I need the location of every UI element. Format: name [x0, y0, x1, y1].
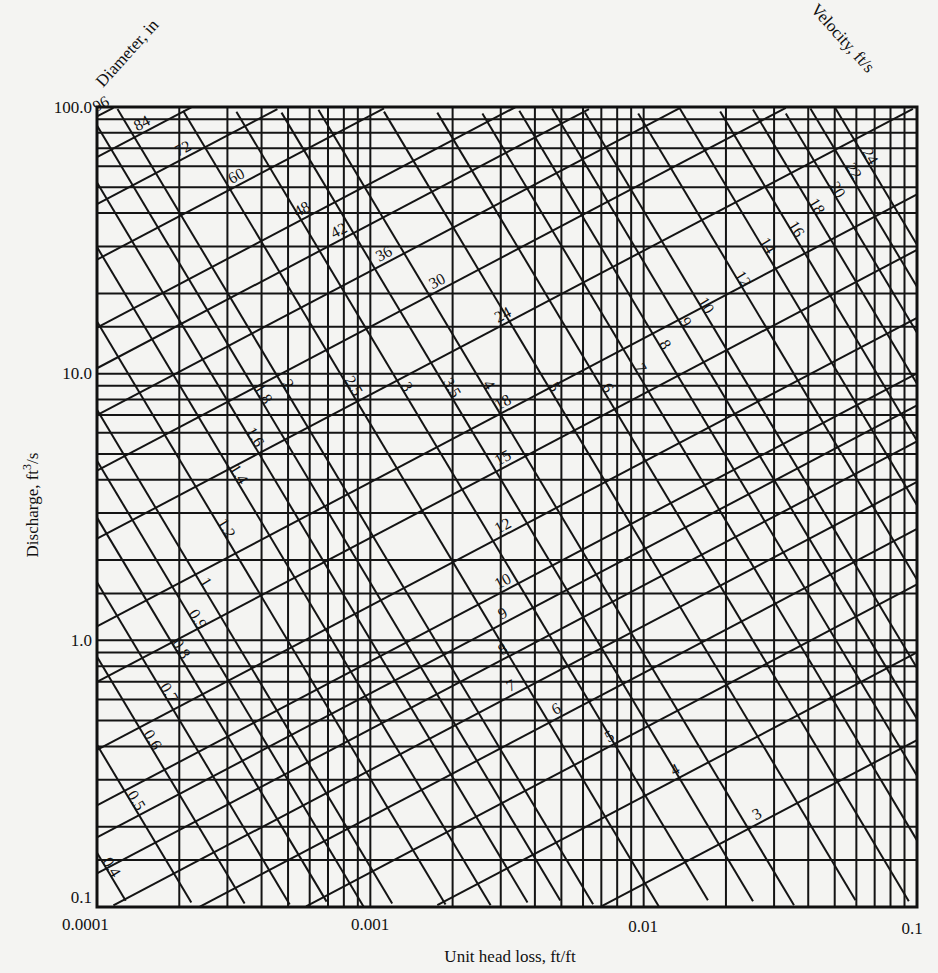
velocity-label: 1.8	[251, 381, 276, 407]
y-tick-0-1: 0.1	[71, 888, 92, 907]
x-tick-0-0001: 0.0001	[62, 915, 109, 934]
velocity-line	[437, 113, 909, 902]
diameter-line	[113, 482, 917, 905]
velocity-label: 22	[843, 160, 866, 182]
diameter-label: 9	[495, 604, 510, 623]
velocity-line	[97, 183, 528, 903]
nomograph-chart: 9684726048423630241815121098765432422201…	[0, 0, 938, 973]
diameter-label: 7	[503, 676, 518, 695]
y-axis-title: Discharge, ft3/s	[20, 453, 42, 558]
diameter-line	[97, 108, 786, 471]
diameter-label: 10	[492, 570, 514, 592]
velocity-label: 8	[656, 337, 675, 353]
velocity-label: 0.9	[186, 606, 211, 632]
diameter-label: 4	[667, 760, 682, 779]
velocity-label: 14	[757, 234, 780, 256]
x-tick-0-001: 0.001	[351, 915, 389, 934]
diameter-label: 96	[90, 92, 112, 114]
velocity-line	[585, 113, 917, 668]
velocity-line	[118, 109, 594, 904]
velocity-label: 1	[197, 574, 216, 590]
diameter-line	[306, 584, 917, 906]
velocity-label: 1.4	[227, 461, 252, 487]
velocity-label: 0.5	[124, 787, 149, 813]
velocity-label: 12	[732, 267, 755, 289]
velocity-label: 1.2	[214, 515, 239, 541]
diameter-axis-title: Diameter, in	[92, 15, 163, 91]
velocity-label: 3	[398, 379, 417, 395]
diameter-label: 72	[172, 137, 194, 159]
x-tick-0-1: 0.1	[901, 919, 922, 938]
velocity-label: 4	[480, 377, 499, 393]
diameter-line	[601, 740, 917, 906]
diameter-label: 12	[492, 514, 514, 536]
diameter-label: 18	[492, 391, 514, 413]
velocity-line	[786, 113, 917, 332]
velocity-line	[236, 112, 708, 901]
velocity-label: 3.5	[440, 375, 465, 401]
velocity-label: 2.5	[341, 373, 366, 399]
diameter-line	[97, 441, 917, 873]
y-tick-10: 10.0	[62, 364, 92, 383]
velocity-axis-title: Velocity, ft/s	[807, 0, 879, 76]
x-axis-title: Unit head loss, ft/ft	[444, 947, 576, 966]
velocity-label: 16	[785, 218, 808, 240]
velocity-label: 20	[826, 178, 849, 200]
velocity-label: 0.7	[157, 680, 182, 706]
diameter-line	[200, 529, 918, 907]
velocity-line	[97, 322, 446, 905]
velocity-label: 1.6	[243, 424, 268, 450]
diameter-label: 15	[492, 446, 514, 468]
diameter-line	[97, 405, 917, 837]
velocity-label: 0.6	[141, 727, 166, 753]
velocity-label: 10	[695, 294, 718, 316]
y-tick-1: 1.0	[71, 631, 92, 650]
diameter-line	[97, 373, 917, 805]
diameter-line	[97, 194, 917, 626]
diameter-label: 8	[495, 640, 510, 659]
x-tick-0-01: 0.01	[628, 917, 658, 936]
y-tick-100: 100.0	[54, 98, 92, 117]
diameter-label: 84	[131, 112, 153, 134]
velocity-label: 0.4	[100, 854, 125, 880]
diameter-label: 5	[602, 727, 617, 746]
diameter-label: 30	[426, 270, 448, 292]
diameter-line	[97, 109, 277, 204]
diameter-label: 3	[749, 804, 764, 823]
